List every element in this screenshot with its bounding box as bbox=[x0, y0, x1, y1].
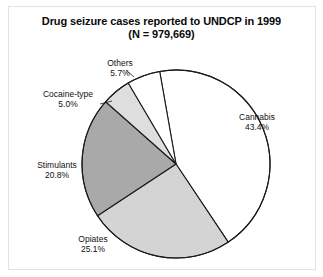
pie-label-cocaine-type-value: 5.0% bbox=[33, 99, 103, 109]
pie-label-stimulants-name: Stimulants bbox=[22, 160, 92, 170]
pie-label-stimulants-value: 20.8% bbox=[22, 170, 92, 180]
pie-label-others-name: Others bbox=[92, 58, 148, 68]
pie-label-cocaine-type: Cocaine-type 5.0% bbox=[33, 89, 103, 109]
pie-label-cocaine-type-name: Cocaine-type bbox=[33, 89, 103, 99]
pie-label-stimulants: Stimulants 20.8% bbox=[22, 160, 92, 180]
pie-label-cannabis: Cannabis 43.4% bbox=[228, 112, 286, 132]
pie-label-others-value: 5.7% bbox=[92, 68, 148, 78]
pie-chart-figure: Drug seizure cases reported to UNDCP in … bbox=[0, 0, 323, 277]
pie-label-opiates-name: Opiates bbox=[62, 234, 124, 244]
pie-label-cannabis-name: Cannabis bbox=[228, 112, 286, 122]
pie-label-others: Others 5.7% bbox=[92, 58, 148, 78]
pie-label-opiates-value: 25.1% bbox=[62, 244, 124, 254]
pie-plot-area bbox=[0, 0, 323, 277]
pie-label-cannabis-value: 43.4% bbox=[228, 122, 286, 132]
pie-label-opiates: Opiates 25.1% bbox=[62, 234, 124, 254]
